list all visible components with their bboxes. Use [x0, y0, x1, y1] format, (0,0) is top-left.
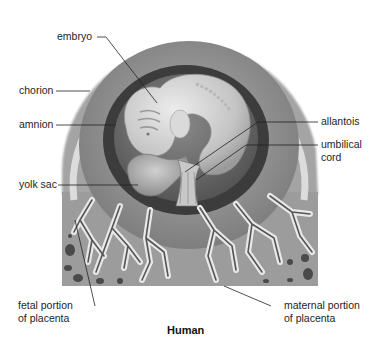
- maternal-placenta-leader: [224, 286, 271, 306]
- label-fetal-placenta-2: of placenta: [18, 312, 69, 325]
- label-maternal-placenta-1: maternal portion: [284, 299, 360, 312]
- label-umbilical-cord-2: cord: [321, 151, 341, 164]
- label-embryo: embryo: [57, 30, 92, 43]
- label-yolk-sac: yolk sac: [19, 178, 57, 191]
- label-allantois: allantois: [321, 115, 360, 128]
- embryo-placenta-diagram: [0, 0, 375, 350]
- label-chorion: chorion: [19, 84, 53, 97]
- figure-title: Human: [167, 324, 204, 336]
- label-maternal-placenta-2: of placenta: [284, 312, 335, 325]
- label-amnion: amnion: [19, 118, 53, 131]
- label-umbilical-cord-1: umbilical: [321, 138, 362, 151]
- label-fetal-placenta-1: fetal portion: [18, 299, 73, 312]
